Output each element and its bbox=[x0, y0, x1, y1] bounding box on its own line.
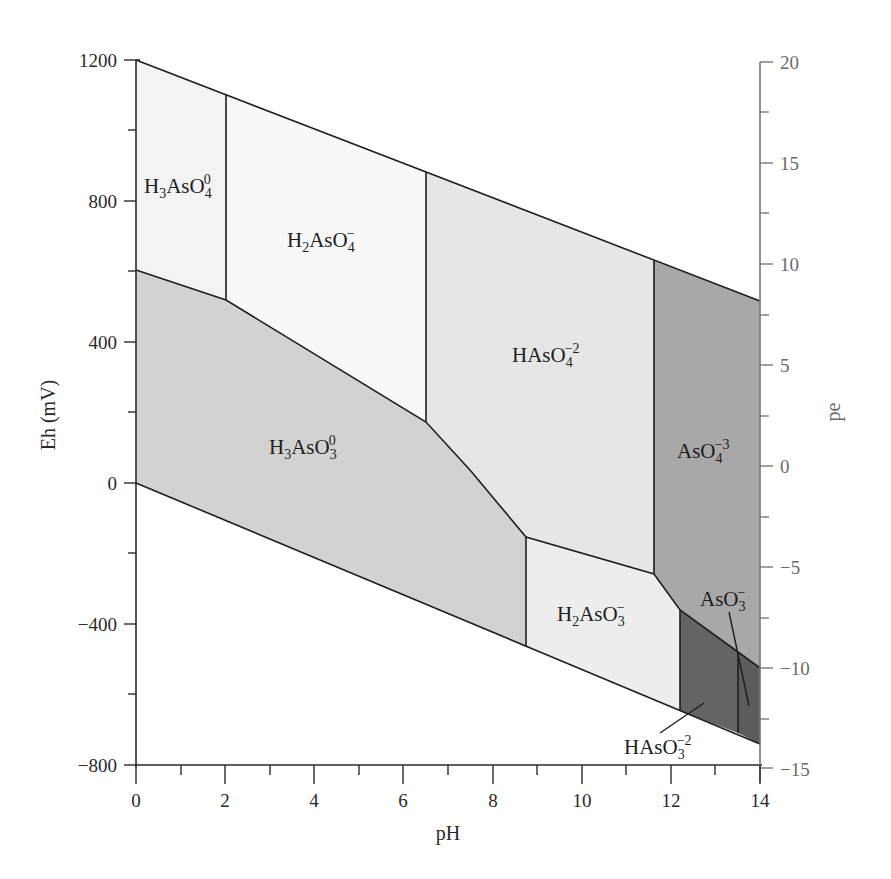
label-aso4: AsO4−3 bbox=[677, 437, 729, 466]
right-tick-labels: 20 15 10 5 0 −5 −10 −15 bbox=[780, 52, 810, 780]
y2-tick-label: −15 bbox=[780, 759, 810, 780]
y2-tick-label: 20 bbox=[780, 52, 799, 73]
y2-axis-title: pe bbox=[822, 402, 845, 421]
y2-tick-label: 5 bbox=[780, 355, 790, 376]
y-tick-label: 800 bbox=[89, 191, 118, 212]
left-ticks bbox=[124, 60, 136, 765]
x-tick-label: 4 bbox=[309, 790, 319, 811]
label-h2aso4: H2AsO4− bbox=[287, 226, 355, 255]
eh-ph-diagram: 1200 800 400 0 −400 −800 20 15 10 5 0 −5… bbox=[0, 0, 891, 879]
y-tick-label: 400 bbox=[89, 332, 118, 353]
y-axis-title: Eh (mV) bbox=[37, 380, 60, 451]
label-aso3: AsO3− bbox=[700, 585, 746, 614]
y-tick-label: 0 bbox=[108, 473, 118, 494]
label-haso4: HAsO4−2 bbox=[512, 341, 580, 370]
x-tick-label: 0 bbox=[131, 790, 141, 811]
y-tick-label: −800 bbox=[78, 755, 117, 776]
x-tick-label: 10 bbox=[573, 790, 592, 811]
left-tick-labels: 1200 800 400 0 −400 −800 bbox=[78, 50, 117, 776]
label-h3aso4: H3AsO40 bbox=[144, 172, 212, 201]
x-tick-label: 14 bbox=[751, 790, 771, 811]
y2-tick-label: 10 bbox=[780, 254, 799, 275]
y-tick-label: −400 bbox=[78, 614, 117, 635]
stability-regions bbox=[136, 60, 760, 744]
y-tick-label: 1200 bbox=[79, 50, 117, 71]
label-haso3: HAsO3−2 bbox=[624, 733, 692, 762]
bottom-ticks bbox=[136, 765, 760, 784]
x-tick-label: 8 bbox=[488, 790, 498, 811]
y2-tick-label: −5 bbox=[780, 557, 800, 578]
x-tick-label: 6 bbox=[398, 790, 408, 811]
x-tick-label: 12 bbox=[662, 790, 681, 811]
x-tick-label: 2 bbox=[220, 790, 230, 811]
right-ticks bbox=[760, 62, 773, 768]
y2-tick-label: 0 bbox=[780, 456, 790, 477]
x-axis-title: pH bbox=[436, 822, 460, 845]
label-h3aso3: H3AsO30 bbox=[269, 433, 337, 462]
y2-tick-label: 15 bbox=[780, 153, 799, 174]
label-h2aso3: H2AsO3− bbox=[557, 600, 625, 629]
bottom-tick-labels: 0 2 4 6 8 10 12 14 bbox=[131, 790, 770, 811]
y2-tick-label: −10 bbox=[780, 658, 810, 679]
